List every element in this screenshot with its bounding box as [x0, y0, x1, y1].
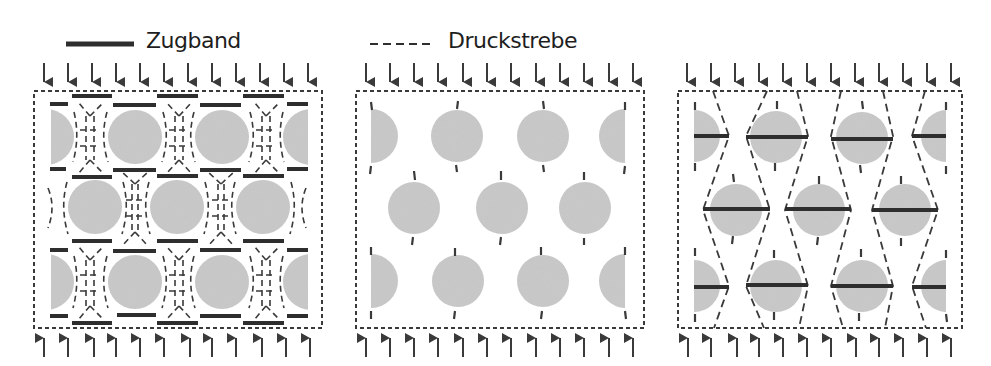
- panel-voids-only: [344, 63, 653, 357]
- load-arrows-top: [687, 63, 951, 82]
- figure: Zugband Druckstrebe: [0, 0, 991, 366]
- load-arrows-bottom: [44, 338, 310, 357]
- load-arrows-top: [366, 63, 633, 82]
- load-arrows-bottom: [366, 338, 633, 357]
- diagram-canvas: [0, 0, 991, 366]
- voids: [344, 109, 653, 308]
- load-arrows-top: [44, 63, 308, 82]
- panel-simplified-strut-and-tie: [668, 63, 973, 357]
- load-arrows-bottom: [688, 338, 951, 357]
- voids: [18, 109, 339, 310]
- panel-strut-and-tie-dense: [18, 63, 339, 357]
